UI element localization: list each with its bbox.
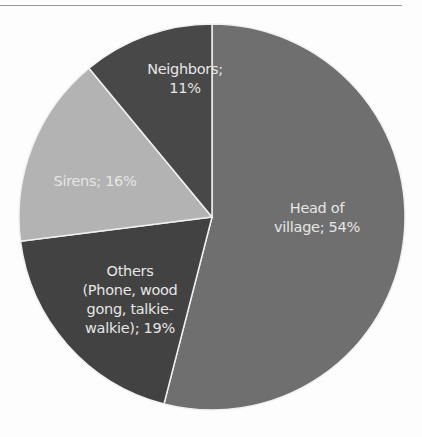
label-line: Head of — [262, 199, 372, 218]
label-line: Others — [70, 262, 190, 281]
label-sirens: Sirens; 16% — [40, 172, 150, 191]
label-line: 11% — [130, 79, 240, 98]
label-neighbors: Neighbors; 11% — [130, 60, 240, 98]
label-line: Sirens; 16% — [40, 172, 150, 191]
label-others: Others (Phone, wood gong, talkie- walkie… — [70, 262, 190, 338]
label-head-of-village: Head of village; 54% — [262, 199, 372, 237]
label-line: (Phone, wood — [70, 281, 190, 300]
label-line: village; 54% — [262, 218, 372, 237]
label-line: gong, talkie- — [70, 300, 190, 319]
label-line: Neighbors; — [130, 60, 240, 79]
label-line: walkie); 19% — [70, 319, 190, 338]
